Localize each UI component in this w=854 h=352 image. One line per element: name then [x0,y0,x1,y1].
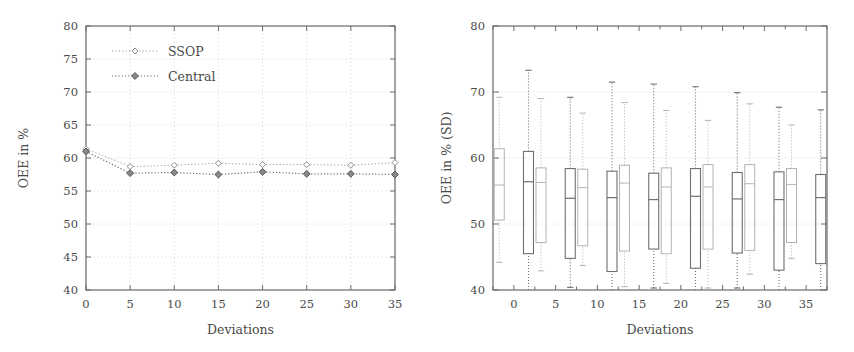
x-tick-label: 10 [167,297,182,311]
box-iqr [578,169,588,246]
box-iqr [607,171,617,271]
y-tick-label: 75 [63,52,78,66]
x-axis-title: Deviations [627,322,694,337]
y-tick-label: 80 [470,19,485,33]
boxplot-central-20 [690,87,700,290]
boxplot-ssop-20 [661,110,671,283]
y-tick-label: 80 [63,19,78,33]
boxplot-ssop-30 [745,104,755,274]
data-point-ssop-5 [127,164,133,170]
legend-label-ssop: SSOP [168,44,204,59]
y-axis-title: OEE in % [16,128,31,188]
plot-frame [493,26,827,290]
box-iqr [690,169,700,269]
data-point-ssop-10 [171,162,177,168]
y-tick-label: 70 [470,85,485,99]
series-line-central [86,151,395,174]
x-tick-label: 0 [510,297,517,311]
boxplot-central-25 [732,93,742,288]
box-iqr [661,168,671,254]
y-tick-label: 70 [63,85,78,99]
data-point-central-15 [215,171,222,178]
box-iqr [620,165,630,251]
y-tick-label: 55 [63,184,78,198]
boxplot-chart-svg: 405060708005101520253035DeviationsOEE in… [427,0,854,352]
y-tick-label: 45 [63,250,78,264]
line-chart-svg: 40455055606570758005101520253035Deviatio… [0,0,427,352]
y-tick-label: 50 [63,217,78,231]
data-point-central-5 [127,170,134,177]
chart-panel-left-line: 40455055606570758005101520253035Deviatio… [0,0,427,352]
plot-frame [86,26,395,290]
x-tick-label: 15 [632,297,647,311]
boxplot-ssop-0 [494,97,504,262]
x-tick-label: 30 [344,297,359,311]
boxplot-ssop-15 [620,103,630,287]
data-point-ssop-30 [348,162,354,168]
y-tick-label: 65 [63,118,78,132]
x-tick-label: 20 [674,297,689,311]
legend-marker-central [132,73,139,80]
data-point-ssop-15 [215,160,221,166]
figure-two-panel-oee: 40455055606570758005101520253035Deviatio… [0,0,854,352]
x-tick-label: 35 [799,297,814,311]
box-iqr [565,169,575,259]
x-tick-label: 25 [715,297,730,311]
y-axis-title: OEE in % (SD) [439,112,454,205]
boxplot-ssop-25 [703,120,713,288]
x-tick-label: 35 [388,297,403,311]
data-point-ssop-20 [260,162,266,168]
boxplot-central-0 [523,70,533,290]
box-iqr [494,149,504,220]
box-iqr [816,175,826,264]
x-tick-label: 5 [126,297,133,311]
y-tick-label: 60 [63,151,78,165]
boxplot-central-15 [649,84,659,288]
x-tick-label: 0 [82,297,89,311]
data-point-central-20 [259,168,266,175]
data-point-central-25 [303,170,310,177]
box-iqr [732,173,742,254]
boxplot-central-35 [816,110,826,290]
box-iqr [787,169,797,243]
data-point-ssop-25 [304,162,310,168]
x-tick-label: 25 [299,297,314,311]
boxplot-ssop-10 [578,113,588,265]
boxplot-ssop-5 [536,99,546,271]
x-tick-label: 15 [211,297,226,311]
y-tick-label: 40 [63,283,78,297]
data-point-central-35 [392,171,399,178]
x-axis-title: Deviations [207,322,274,337]
data-point-ssop-35 [392,160,398,166]
y-tick-label: 50 [470,217,485,231]
boxplot-central-30 [774,107,784,290]
box-iqr [523,151,533,253]
y-tick-label: 40 [470,283,485,297]
legend-label-central: Central [168,69,215,84]
x-tick-label: 10 [590,297,605,311]
box-iqr [745,165,755,251]
box-iqr [774,172,784,270]
chart-panel-right-boxplot: 405060708005101520253035DeviationsOEE in… [427,0,854,352]
box-iqr [703,165,713,249]
box-iqr [536,168,546,243]
legend-marker-ssop [132,48,138,54]
data-point-central-30 [347,170,354,177]
x-tick-label: 20 [255,297,270,311]
boxplot-central-10 [607,82,617,290]
boxplot-ssop-35 [787,125,797,258]
y-tick-label: 60 [470,151,485,165]
x-tick-label: 5 [552,297,559,311]
boxplot-central-5 [565,97,575,287]
data-point-central-10 [171,169,178,176]
x-tick-label: 30 [757,297,772,311]
box-iqr [649,173,659,249]
